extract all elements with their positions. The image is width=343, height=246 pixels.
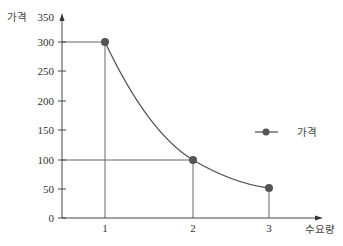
- legend-label: 가격: [297, 126, 317, 138]
- svg-text:350: 350: [38, 11, 55, 23]
- data-point: [189, 156, 197, 164]
- svg-text:50: 50: [43, 183, 55, 195]
- svg-text:3: 3: [266, 222, 272, 234]
- svg-text:2: 2: [190, 222, 196, 234]
- svg-text:200: 200: [38, 95, 55, 107]
- legend-marker-icon: [263, 129, 270, 136]
- svg-text:0: 0: [49, 212, 55, 224]
- svg-text:150: 150: [38, 124, 55, 136]
- data-point: [265, 184, 273, 192]
- data-points: [101, 38, 273, 192]
- x-axis-label: 수요량: [305, 223, 335, 235]
- chart: 0 50 100 150 200 250 300 350 가격 1 2 3 수요…: [0, 0, 343, 246]
- data-point: [101, 38, 109, 46]
- svg-text:250: 250: [38, 65, 55, 77]
- y-axis-label: 가격: [7, 11, 27, 23]
- x-axis-arrow-icon: [315, 216, 323, 221]
- y-axis-arrow-icon: [60, 13, 65, 21]
- svg-text:1: 1: [102, 222, 108, 234]
- x-tick-labels: 1 2 3: [102, 222, 272, 234]
- axes: [62, 18, 318, 218]
- y-tick-labels: 0 50 100 150 200 250 300 350: [38, 11, 55, 224]
- svg-text:100: 100: [38, 154, 55, 166]
- guide-lines: [62, 42, 269, 218]
- legend: 가격: [255, 126, 317, 138]
- price-curve: [105, 42, 269, 188]
- svg-text:300: 300: [38, 36, 55, 48]
